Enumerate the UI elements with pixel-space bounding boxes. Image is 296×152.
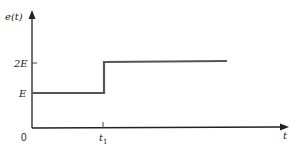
y-axis-label: e(t)	[5, 11, 23, 22]
xtick-t1-label: t1	[99, 132, 108, 146]
x-axis-label: t	[283, 130, 288, 141]
signal-step-line	[32, 61, 227, 93]
origin-label: 0	[21, 132, 27, 143]
ytick-E-label: E	[18, 88, 27, 99]
ytick-2E-label: 2E	[13, 58, 28, 69]
step-chart: e(t) 2E E 0 t1 t	[0, 0, 296, 152]
y-axis-arrow-icon	[29, 10, 36, 19]
x-axis	[32, 127, 280, 128]
